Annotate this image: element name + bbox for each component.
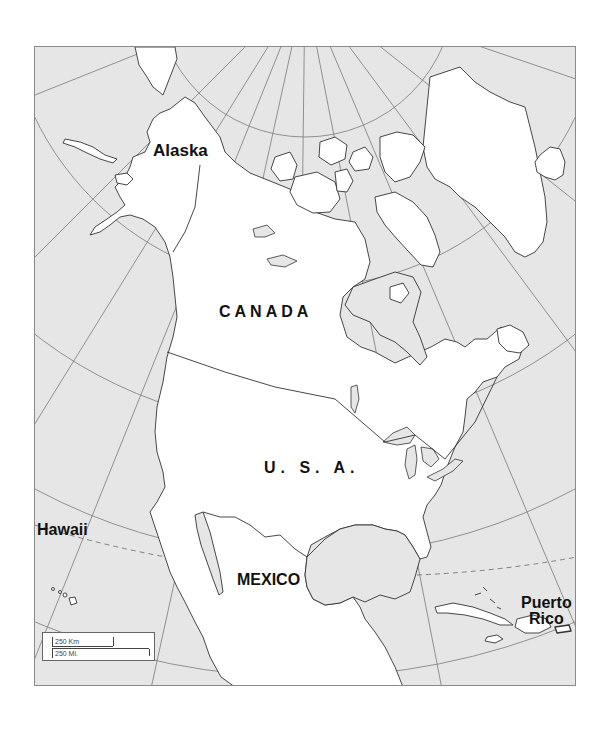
label-hawaii: Hawaii	[37, 521, 88, 539]
hawaii-big-island	[69, 597, 77, 605]
map-canvas	[35, 47, 576, 686]
map-frame: Alaska CANADA U. S. A. MEXICO Hawaii Pue…	[34, 46, 576, 686]
scale-bar: 250 Km 250 Mi.	[42, 632, 155, 661]
cuba	[435, 603, 513, 625]
label-puerto-rico-line2: Rico	[521, 611, 572, 627]
greenland	[423, 67, 547, 257]
arctic-island-1	[319, 137, 347, 165]
label-puerto-rico: Puerto Rico	[521, 595, 572, 627]
scale-mi: 250 Mi.	[52, 648, 149, 658]
label-mexico: MEXICO	[237, 571, 300, 589]
label-canada: CANADA	[219, 303, 312, 321]
arctic-island-3	[335, 169, 353, 192]
scale-km: 250 Km	[52, 637, 113, 647]
russia-chukotka	[135, 47, 177, 95]
label-alaska: Alaska	[153, 141, 208, 161]
aleutian-islands	[63, 139, 117, 163]
banks-island	[271, 152, 297, 181]
arctic-island-2	[349, 147, 373, 171]
label-usa: U. S. A.	[264, 459, 359, 477]
hawaii-island-3	[63, 593, 67, 597]
jamaica	[485, 635, 503, 643]
hawaii-island-1	[52, 588, 55, 591]
baffin-island	[375, 192, 440, 267]
label-puerto-rico-line1: Puerto	[521, 595, 572, 611]
hawaii-island-2	[59, 591, 62, 594]
bahamas	[475, 587, 501, 609]
